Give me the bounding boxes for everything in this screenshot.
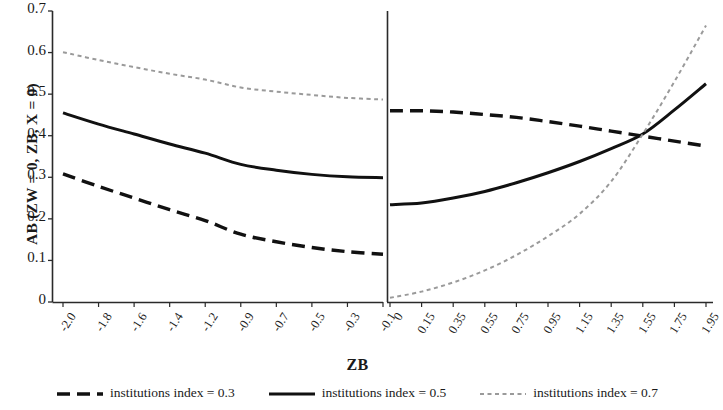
legend-item[interactable]: institutions index = 0.5 (269, 385, 447, 401)
series-line-solid (390, 84, 706, 205)
series-line-dashed (390, 111, 706, 146)
chart-legend: institutions index = 0.3institutions ind… (0, 385, 715, 401)
legend-label: institutions index = 0.7 (533, 385, 658, 401)
series-line-dotted (63, 52, 383, 99)
series-line-dashed (63, 174, 383, 254)
legend-item[interactable]: institutions index = 0.3 (57, 385, 235, 401)
legend-swatch-dashed-icon (57, 390, 103, 396)
x-axis-title: ZB (0, 356, 715, 374)
legend-item[interactable]: institutions index = 0.7 (480, 385, 658, 401)
legend-swatch-solid-icon (269, 390, 315, 396)
series-line-dotted (390, 26, 706, 298)
series-line-solid (63, 113, 383, 178)
legend-label: institutions index = 0.3 (110, 385, 235, 401)
legend-label: institutions index = 0.5 (322, 385, 447, 401)
legend-swatch-dotted-icon (480, 390, 526, 396)
